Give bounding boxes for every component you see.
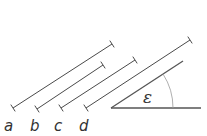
label-a: a: [4, 117, 13, 135]
epsilon-label: ε: [143, 87, 152, 107]
label-b: b: [30, 117, 40, 135]
geometry-diagram: ε a b c d: [0, 0, 207, 136]
label-d: d: [79, 117, 89, 135]
label-c: c: [54, 117, 63, 135]
segment-c: [59, 57, 137, 112]
segment-d: [84, 37, 192, 112]
angle-epsilon: ε: [111, 61, 201, 108]
segment-a: [11, 41, 114, 112]
